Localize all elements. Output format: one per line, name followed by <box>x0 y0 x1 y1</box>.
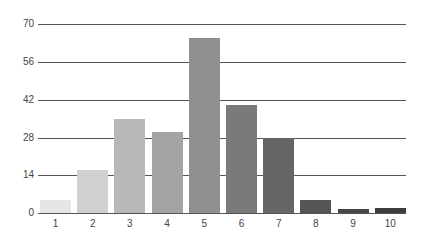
x-tick-label: 7 <box>263 218 294 230</box>
gridline <box>38 62 406 63</box>
gridline <box>38 24 406 25</box>
bar-6 <box>226 105 257 213</box>
bar-2 <box>77 170 108 213</box>
bar-5 <box>189 38 220 213</box>
x-tick-label: 6 <box>226 218 257 230</box>
bar-4 <box>152 132 183 213</box>
bar-3 <box>114 119 145 213</box>
x-tick-label: 2 <box>77 218 108 230</box>
y-tick-label: 0 <box>4 207 34 219</box>
x-axis-baseline <box>38 213 406 214</box>
bar-8 <box>300 200 331 213</box>
x-tick-label: 4 <box>152 218 183 230</box>
gridline <box>38 100 406 101</box>
y-tick-label: 28 <box>4 132 34 144</box>
y-tick-label: 56 <box>4 56 34 68</box>
gridline <box>38 138 406 139</box>
bar-chart: 01428425670 12345678910 <box>0 0 427 245</box>
bar-9 <box>338 209 369 213</box>
x-tick-label: 10 <box>375 218 406 230</box>
x-tick-label: 1 <box>40 218 71 230</box>
bar-1 <box>40 200 71 213</box>
bar-10 <box>375 208 406 213</box>
bar-7 <box>263 138 294 213</box>
x-tick-label: 9 <box>338 218 369 230</box>
x-tick-label: 3 <box>114 218 145 230</box>
y-tick-label: 42 <box>4 94 34 106</box>
y-tick-label: 70 <box>4 18 34 30</box>
y-tick-label: 14 <box>4 169 34 181</box>
x-tick-label: 8 <box>300 218 331 230</box>
x-tick-label: 5 <box>189 218 220 230</box>
